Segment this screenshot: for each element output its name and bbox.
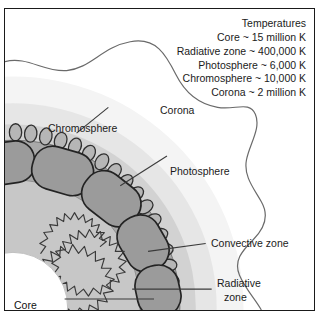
label-core: Core bbox=[13, 299, 38, 311]
temperature-row-chromosphere: Chromosphere ~ 10,000 K bbox=[177, 72, 306, 86]
temperature-row-corona: Corona ~ 2 million K bbox=[177, 86, 306, 100]
temperatures-block: Temperatures Core ~ 15 million K Radiati… bbox=[177, 17, 306, 100]
label-chromosphere: Chromosphere bbox=[48, 122, 117, 134]
temperature-row-photosphere: Photosphere ~ 6,000 K bbox=[177, 59, 306, 73]
temperatures-heading: Temperatures bbox=[177, 17, 306, 31]
temperature-row-core: Core ~ 15 million K bbox=[177, 31, 306, 45]
diagram-frame: Temperatures Core ~ 15 million K Radiati… bbox=[4, 8, 315, 311]
temperature-row-radiative-zone: Radiative zone ~ 400,000 K bbox=[177, 45, 306, 59]
label-radiative-zone-line1: Radiative bbox=[217, 277, 261, 289]
label-photosphere: Photosphere bbox=[170, 165, 230, 177]
label-corona: Corona bbox=[160, 104, 194, 116]
label-convective-zone: Convective zone bbox=[211, 237, 289, 249]
label-radiative-zone-line2: zone bbox=[224, 291, 247, 303]
diagram-canvas: Temperatures Core ~ 15 million K Radiati… bbox=[0, 0, 321, 320]
